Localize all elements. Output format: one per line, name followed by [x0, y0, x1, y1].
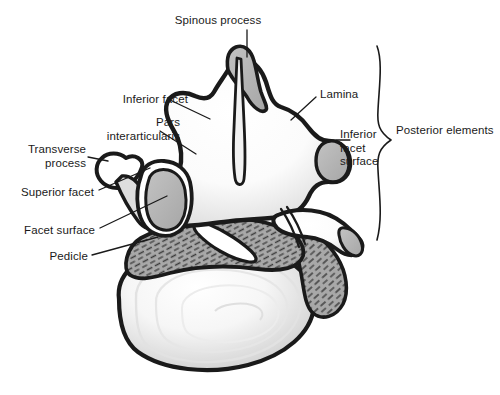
leader-lamina: [291, 97, 316, 120]
label-pedicle: Pedicle: [38, 250, 88, 264]
label-inferior-facet: Inferior facet: [98, 93, 188, 107]
label-pars-interarticularis: Pars interarticularis: [85, 116, 180, 143]
label-facet-surface: Facet surface: [10, 224, 95, 238]
label-spinous-process: Spinous process: [158, 14, 278, 28]
label-lamina: Lamina: [320, 88, 380, 102]
facet-surface: [146, 169, 186, 230]
label-posterior-elements: Posterior elements: [396, 124, 500, 138]
label-superior-facet: Superior facet: [8, 186, 94, 200]
label-transverse-process: Transverse process: [16, 143, 86, 170]
anatomy-figure: Spinous process Inferior facet Pars inte…: [0, 0, 500, 395]
label-inferior-facet-surface: Inferior facet surface: [340, 128, 390, 169]
superior-facet: [137, 161, 191, 236]
